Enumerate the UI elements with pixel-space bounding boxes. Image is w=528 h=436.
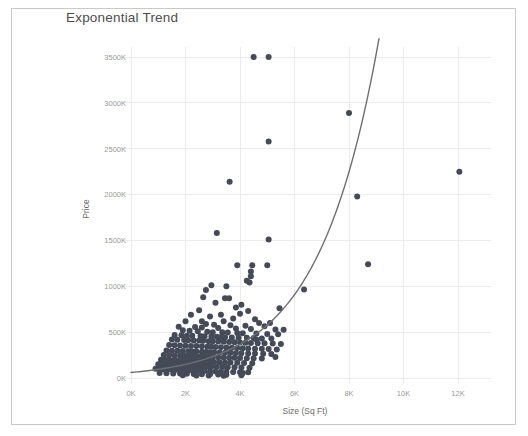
y-tick-label: 3500K xyxy=(104,53,126,62)
data-point xyxy=(266,237,272,243)
data-point xyxy=(215,338,221,344)
data-point xyxy=(264,331,270,337)
data-point xyxy=(199,343,205,349)
data-point xyxy=(183,343,189,349)
x-tick-label: 10K xyxy=(397,389,410,398)
x-axis-tick-labels: 0K2K4K6K8K10K12K xyxy=(126,389,464,398)
data-point xyxy=(207,314,213,320)
y-tick-label: 2000K xyxy=(104,190,126,199)
data-point xyxy=(177,342,183,348)
data-point xyxy=(218,312,224,318)
data-point xyxy=(221,373,227,379)
x-tick-label: 12K xyxy=(451,389,464,398)
trend-line xyxy=(131,39,379,373)
data-point xyxy=(157,370,163,376)
data-point xyxy=(218,344,224,350)
data-point xyxy=(230,315,236,321)
data-point xyxy=(163,370,169,376)
data-point xyxy=(248,273,254,279)
data-point xyxy=(183,318,189,324)
data-point xyxy=(281,327,287,333)
x-tick-label: 2K xyxy=(181,389,190,398)
data-point xyxy=(275,331,281,337)
data-point xyxy=(244,278,250,284)
data-point xyxy=(200,338,206,344)
data-point xyxy=(248,340,254,346)
data-point xyxy=(172,342,178,348)
data-point xyxy=(245,369,251,375)
data-point xyxy=(238,372,244,378)
y-tick-label: 1500K xyxy=(104,236,126,245)
data-point xyxy=(206,373,212,379)
data-point xyxy=(249,262,255,268)
data-point xyxy=(227,322,233,328)
data-point xyxy=(208,282,214,288)
data-point xyxy=(191,337,197,343)
x-tick-label: 8K xyxy=(344,389,353,398)
data-point xyxy=(226,339,232,345)
x-axis-title: Size (Sq Ft) xyxy=(283,406,328,416)
data-point xyxy=(174,337,180,343)
data-point xyxy=(169,336,175,342)
data-point xyxy=(230,369,236,375)
data-point xyxy=(222,295,228,301)
data-point xyxy=(278,341,284,347)
data-point xyxy=(354,193,360,199)
y-tick-label: 500K xyxy=(108,328,126,337)
data-point xyxy=(180,372,186,378)
data-point xyxy=(196,307,202,313)
data-point xyxy=(248,326,254,332)
data-point xyxy=(266,54,272,60)
data-point xyxy=(240,330,246,336)
data-point xyxy=(212,300,218,306)
data-point xyxy=(199,318,205,324)
data-point xyxy=(170,370,176,376)
data-point xyxy=(240,345,246,351)
data-point xyxy=(203,287,209,293)
data-point xyxy=(251,54,257,60)
data-point xyxy=(253,336,259,342)
y-tick-label: 0K xyxy=(117,374,126,383)
data-point xyxy=(193,372,199,378)
data-point xyxy=(193,343,199,349)
scatter-plot: 0K500K1000K1500K2000K2500K3000K3500K 0K2… xyxy=(0,0,528,436)
data-point xyxy=(238,302,244,308)
data-point xyxy=(272,354,278,360)
data-point xyxy=(223,283,229,289)
data-point xyxy=(185,337,191,343)
data-point xyxy=(234,262,240,268)
data-point xyxy=(259,356,265,362)
data-point xyxy=(256,320,262,326)
data-point xyxy=(274,346,280,352)
x-tick-label: 0K xyxy=(126,389,135,398)
y-axis-title: Price xyxy=(81,199,91,219)
data-point xyxy=(237,311,243,317)
y-axis-tick-labels: 0K500K1000K1500K2000K2500K3000K3500K xyxy=(104,53,126,383)
data-point xyxy=(227,179,233,185)
data-point xyxy=(242,323,248,329)
data-point xyxy=(200,294,206,300)
data-point xyxy=(188,312,194,318)
data-point xyxy=(199,371,205,377)
data-point xyxy=(188,343,194,349)
data-point xyxy=(262,340,268,346)
data-point xyxy=(215,372,221,378)
data-point xyxy=(270,341,276,347)
data-point xyxy=(264,262,270,268)
data-point xyxy=(233,304,239,310)
data-point xyxy=(245,308,251,314)
data-point xyxy=(365,261,371,267)
data-point xyxy=(266,138,272,144)
data-point xyxy=(301,286,307,292)
data-point xyxy=(221,339,227,345)
data-point xyxy=(346,110,352,116)
data-point xyxy=(210,338,216,344)
x-tick-label: 6K xyxy=(290,389,299,398)
data-point xyxy=(456,169,462,175)
y-tick-label: 2500K xyxy=(104,145,126,154)
data-point xyxy=(268,336,274,342)
data-point xyxy=(232,339,238,345)
data-point xyxy=(214,230,220,236)
gridlines-horizontal xyxy=(122,57,491,378)
data-point xyxy=(212,344,218,350)
